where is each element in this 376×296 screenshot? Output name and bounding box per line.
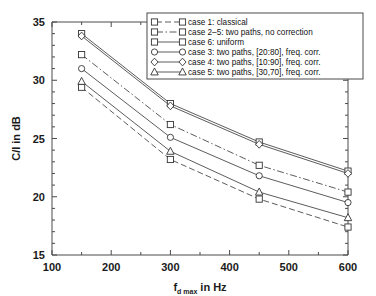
series-4 — [79, 66, 352, 206]
legend-label-1: case 1: classical — [188, 18, 248, 27]
x-tick-label: 600 — [339, 261, 357, 273]
y-tick-label: 35 — [33, 16, 45, 28]
x-tick-label: 400 — [220, 261, 238, 273]
series-4-pt-0-circle-marker — [79, 66, 85, 72]
x-axis-title-tail: in Hz — [197, 281, 227, 293]
series-2-pt-1-square-marker — [167, 121, 173, 127]
series-2-pt-0-square-marker — [79, 52, 85, 58]
legend-1-left-square-marker — [151, 19, 157, 25]
legend-label-3: case 6: uniform — [188, 38, 244, 47]
y-axis-title: C/I in dB — [10, 116, 22, 161]
series-1 — [79, 84, 352, 230]
legend: case 1: classicalcase 2–5: two paths, no… — [147, 13, 363, 79]
series-2-pt-2-square-marker — [256, 162, 262, 168]
series-4-pt-3-circle-marker — [345, 199, 351, 205]
series-1-pt-1-square-marker — [167, 156, 173, 162]
x-axis-title: fd max in Hz — [173, 281, 227, 295]
y-tick-label: 25 — [33, 133, 45, 145]
y-tick-label: 30 — [33, 74, 45, 86]
series-4-pt-1-circle-marker — [167, 134, 173, 140]
legend-label-2: case 2–5: two paths, no correction — [188, 28, 313, 37]
series-2-pt-3-square-marker — [345, 189, 351, 195]
legend-3-left-square-marker — [151, 39, 157, 45]
legend-3-right-square-marker — [179, 39, 185, 45]
chart-figure: 1520253035100200300400500600C/I in dBfd … — [0, 0, 376, 296]
series-line-4 — [82, 69, 348, 203]
series-1-pt-3-square-marker — [345, 224, 351, 230]
legend-4-left-circle-marker — [151, 49, 157, 55]
legend-label-6: case 5: two paths, [30,70], freq. corr. — [188, 68, 320, 77]
series-6-pt-1-triangle-marker — [167, 147, 174, 154]
x-tick-label: 100 — [43, 261, 61, 273]
legend-4-right-circle-marker — [179, 49, 185, 55]
legend-2-left-square-marker — [151, 29, 157, 35]
x-axis-title-subscript: d max — [177, 288, 197, 295]
legend-2-right-square-marker — [179, 29, 185, 35]
x-tick-label: 300 — [161, 261, 179, 273]
legend-1-right-square-marker — [179, 19, 185, 25]
series-6 — [78, 77, 352, 220]
series-6-pt-2-triangle-marker — [255, 188, 262, 195]
x-tick-label: 500 — [280, 261, 298, 273]
series-1-pt-0-square-marker — [79, 84, 85, 90]
y-tick-label: 20 — [33, 191, 45, 203]
y-tick-label: 15 — [33, 249, 45, 261]
legend-label-4: case 3: two paths, [20:80], freq. corr. — [188, 48, 320, 57]
chart-canvas: 1520253035100200300400500600C/I in dBfd … — [0, 0, 376, 296]
x-tick-label: 200 — [102, 261, 120, 273]
series-4-pt-2-circle-marker — [256, 173, 262, 179]
series-1-pt-2-square-marker — [256, 196, 262, 202]
series-6-pt-0-triangle-marker — [78, 77, 85, 84]
series-line-6 — [82, 81, 348, 217]
legend-label-5: case 4: two paths, [10:90], freq. corr. — [188, 58, 320, 67]
